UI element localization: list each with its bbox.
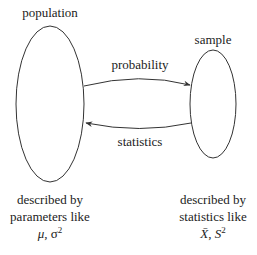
population-parameters-math: μ, σ2 <box>0 226 100 241</box>
probability-edge-label: probability <box>105 57 175 72</box>
population-ellipse <box>16 26 84 182</box>
sample-statistics-math: X̄, S2 <box>163 226 257 241</box>
sample-ellipse <box>190 50 236 158</box>
population-desc-line-2: parameters like <box>0 209 100 224</box>
sample-desc-line-1: described by <box>163 192 257 207</box>
exponent: 2 <box>221 225 226 235</box>
statistics-arrow <box>86 123 191 129</box>
exponent: 2 <box>58 225 63 235</box>
population-label: population <box>10 5 90 20</box>
population-description: described by parameters like μ, σ2 <box>0 192 100 241</box>
sample-label: sample <box>183 32 243 47</box>
population-desc-line-1: described by <box>0 192 100 207</box>
sigma-symbol: σ <box>51 226 58 241</box>
sample-desc-line-2: statistics like <box>163 209 257 224</box>
probability-arrow <box>84 79 190 86</box>
statistics-edge-label: statistics <box>105 134 175 149</box>
sample-description: described by statistics like X̄, S2 <box>163 192 257 241</box>
